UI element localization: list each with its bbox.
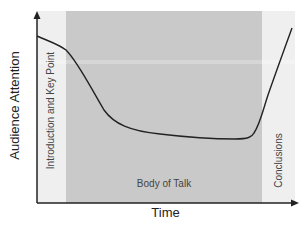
x-axis-label-text: Time [151, 205, 179, 220]
body-label-text: Body of Talk [137, 178, 191, 189]
body-band [66, 11, 262, 203]
x-axis-label: Time [0, 205, 305, 220]
intro-label-text: Introduction and Key Point [46, 51, 57, 168]
body-label: Body of Talk [66, 176, 262, 190]
y-axis-label: Audience Attention [2, 20, 26, 190]
attention-chart: Audience Attention Introduction and Key … [0, 0, 305, 227]
conclusions-label: Conclusions [266, 120, 290, 200]
intro-label: Introduction and Key Point [40, 20, 62, 200]
conclusions-label-text: Conclusions [273, 133, 284, 187]
y-axis-label-text: Audience Attention [7, 51, 22, 159]
